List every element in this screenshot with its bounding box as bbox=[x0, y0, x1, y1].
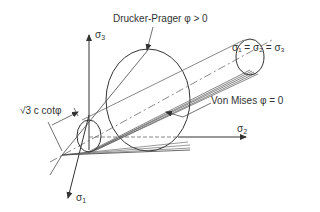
drucker-prager-label: Drucker-Prager φ > 0 bbox=[113, 14, 208, 24]
von-mises-label: Von Mises φ = 0 bbox=[211, 96, 283, 106]
sigma2-label: σ2 bbox=[237, 124, 247, 135]
sigma1-label: σ1 bbox=[76, 193, 86, 204]
sigma3-label: σ3 bbox=[95, 30, 105, 41]
drucker-prager-surface bbox=[106, 49, 190, 151]
drucker-prager-cone bbox=[62, 50, 190, 155]
drucker-prager-leader bbox=[147, 27, 153, 50]
apex-distance-label: √3 c cotφ bbox=[20, 106, 61, 116]
hydrostatic-axis-label: σ₁ = σ₂ = σ₃ bbox=[232, 43, 285, 53]
